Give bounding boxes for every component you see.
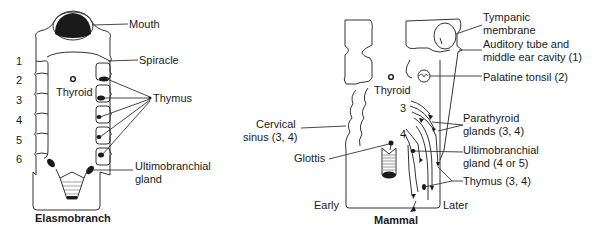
label-tympanic-line1: Tympanic xyxy=(483,11,531,23)
label-parathyroid-line2: glands (3, 4) xyxy=(463,125,524,137)
label-thyroid: Thyroid xyxy=(56,86,93,98)
mouth-shape xyxy=(55,13,91,38)
pharyngeal-derivatives-diagram: Mouth Spiracle Thyroid Thymus Ultimobran… xyxy=(0,0,595,239)
label-spiracle: Spiracle xyxy=(139,54,179,66)
palatine-tonsil-icon xyxy=(418,70,430,82)
left-gill-slits xyxy=(36,61,48,158)
pouch-number-3: 3 xyxy=(400,102,406,114)
label-mammal-thymus: Thymus (3, 4) xyxy=(463,175,531,187)
mammal-title: Mammal xyxy=(374,214,418,226)
left-ultimobranchial-body xyxy=(45,157,56,169)
pouch-migration-arrows xyxy=(405,101,440,212)
elasmobranch-thyroid-icon xyxy=(71,77,76,82)
elasmobranch-thymus-bodies xyxy=(97,77,110,158)
label-ultimobranchial-line2: gland xyxy=(135,173,162,185)
arch-number-4: 4 xyxy=(16,114,22,126)
mammal-glottis xyxy=(382,141,396,179)
mammal-left-wall xyxy=(344,20,372,84)
label-mouth: Mouth xyxy=(129,18,160,30)
arch-number-2: 2 xyxy=(16,74,22,86)
elasmobranch-body-outline xyxy=(33,11,112,210)
label-cervical-line2: sinus (3, 4) xyxy=(243,131,297,143)
label-palatine-tonsil: Palatine tonsil (2) xyxy=(483,71,568,83)
label-ultimobranchial-line1: Ultimobranchial xyxy=(463,144,539,156)
label-ultimobranchial-line1: Ultimobranchial xyxy=(135,160,211,172)
arch-numbers: 1 2 3 4 5 6 xyxy=(16,55,22,165)
label-parathyroid-line1: Parathyroid xyxy=(463,112,519,124)
mammal-panel: Tympanic membrane Auditory tube and midd… xyxy=(243,11,582,226)
label-glottis: Glottis xyxy=(294,152,326,164)
label-later: Later xyxy=(443,199,468,211)
label-ultimobranchial-line2: gland (4 or 5) xyxy=(463,157,528,169)
arch-number-3: 3 xyxy=(16,94,22,106)
label-thymus: Thymus xyxy=(153,92,193,104)
label-tympanic-line2: membrane xyxy=(483,24,536,36)
pouch-number-4: 4 xyxy=(400,128,406,140)
label-cervical-line1: Cervical xyxy=(256,118,296,130)
elasmobranch-glottis-cone xyxy=(56,169,88,199)
elasmobranch-panel: Mouth Spiracle Thyroid Thymus Ultimobran… xyxy=(16,11,211,224)
label-early: Early xyxy=(314,199,340,211)
arch-number-5: 5 xyxy=(16,134,22,146)
arch-number-6: 6 xyxy=(16,153,22,165)
elasmobranch-title: Elasmobranch xyxy=(35,212,111,224)
label-auditory-line2: middle ear cavity (1) xyxy=(483,51,582,63)
mammal-thyroid-icon xyxy=(389,75,394,80)
label-mammal-thyroid: Thyroid xyxy=(374,84,411,96)
label-auditory-line1: Auditory tube and xyxy=(483,38,569,50)
tympanic-membrane-shape xyxy=(434,23,456,49)
tympanic-cavity xyxy=(406,21,450,52)
arch-number-1: 1 xyxy=(16,55,22,67)
